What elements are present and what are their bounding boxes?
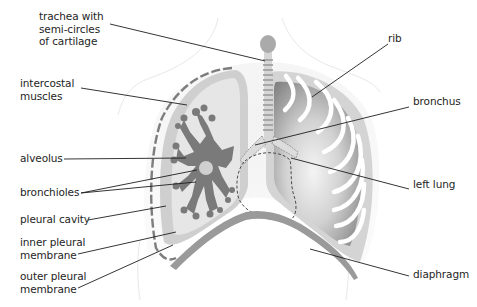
label-trachea: trachea with semi-circles of cartilage — [39, 10, 104, 48]
leader-outer-pleural — [78, 245, 173, 288]
label-outer-pleural-membrane: outer pleural membrane — [20, 270, 86, 295]
lung-diagram: trachea with semi-circles of cartilage i… — [0, 0, 477, 307]
label-diaphragm: diaphragm — [413, 268, 469, 281]
larynx — [260, 35, 276, 53]
label-rib: rib — [388, 32, 402, 45]
label-left-lung: left lung — [413, 178, 455, 191]
label-bronchus: bronchus — [413, 95, 461, 108]
label-bronchioles: bronchioles — [20, 186, 79, 199]
leader-rib — [312, 44, 388, 97]
label-alveolus: alveolus — [20, 152, 63, 165]
label-pleural-cavity: pleural cavity — [20, 213, 90, 226]
leader-trachea — [110, 24, 265, 61]
label-intercostal-muscles: intercostal muscles — [20, 77, 74, 102]
label-inner-pleural-membrane: inner pleural membrane — [20, 236, 85, 261]
